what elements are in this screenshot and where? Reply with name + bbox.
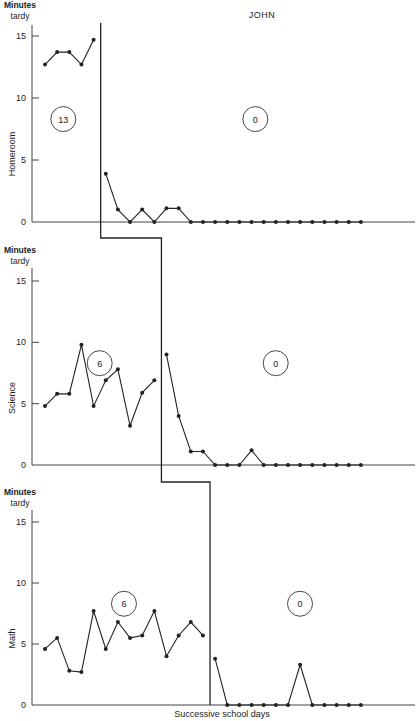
data-point [322,220,326,224]
data-point [225,463,229,467]
data-point [335,220,339,224]
data-point [310,463,314,467]
data-point [116,208,120,212]
phase-change-line [101,23,210,705]
data-point [79,63,83,67]
data-point [43,63,47,67]
panel-homeroom: Minutestardy051015Homeroom130 [4,0,415,227]
multiple-baseline-chart: JOHNMinutestardy051015Homeroom130Minutes… [0,0,420,721]
treatment-series [167,355,361,465]
data-point [128,636,132,640]
data-point [274,463,278,467]
y-tick-label: 5 [21,155,26,165]
data-point [286,703,290,707]
treatment-mean-circle-label: 0 [273,359,278,369]
data-point [92,404,96,408]
data-point [201,450,205,454]
data-point [335,703,339,707]
panel-label: Science [7,382,17,414]
y-tick-label: 0 [21,217,26,227]
baseline-series [45,611,203,672]
data-point [201,220,205,224]
y-tick-label: 15 [16,276,26,286]
data-point [79,670,83,674]
data-point [116,367,120,371]
y-unit-label: Minutes [4,245,36,255]
y-tick-label: 15 [16,31,26,41]
y-tick-label: 0 [21,460,26,470]
data-point [359,463,363,467]
y-unit-label: tardy [11,498,31,508]
data-point [116,620,120,624]
data-point [250,703,254,707]
data-point [128,220,132,224]
data-point [165,206,169,210]
data-point [189,620,193,624]
y-unit-label: tardy [11,11,31,21]
data-point [310,703,314,707]
y-tick-label: 10 [16,337,26,347]
data-point [310,220,314,224]
data-point [213,463,217,467]
y-unit-label: tardy [11,256,31,266]
baseline-mean-circle-label: 13 [58,115,68,125]
data-point [67,392,71,396]
data-point [201,633,205,637]
data-point [347,463,351,467]
data-point [359,220,363,224]
x-axis-title: Successive school days [174,709,270,719]
data-point [104,647,108,651]
data-point [104,172,108,176]
data-point [92,38,96,42]
baseline-mean-circle-label: 6 [97,359,102,369]
data-point [250,220,254,224]
treatment-mean-circle-label: 0 [253,115,258,125]
data-point [322,463,326,467]
data-point [189,450,193,454]
data-point [237,220,241,224]
data-point [298,220,302,224]
data-point [55,392,59,396]
baseline-mean-circle-label: 6 [121,599,126,609]
y-tick-label: 5 [21,639,26,649]
data-point [237,463,241,467]
y-tick-label: 10 [16,93,26,103]
data-point [213,220,217,224]
data-point [152,378,156,382]
treatment-series [106,174,361,222]
panel-label: Math [7,628,17,648]
data-point [347,220,351,224]
data-point [165,353,169,357]
data-point [237,703,241,707]
data-point [177,206,181,210]
data-point [262,703,266,707]
data-point [67,50,71,54]
data-point [225,220,229,224]
y-unit-label: Minutes [4,0,36,10]
data-point [286,463,290,467]
data-point [67,669,71,673]
data-point [347,703,351,707]
data-point [140,391,144,395]
data-point [177,633,181,637]
data-point [104,378,108,382]
data-point [225,703,229,707]
data-point [152,609,156,613]
baseline-series [45,345,154,426]
data-point [79,343,83,347]
data-point [298,463,302,467]
data-point [262,220,266,224]
treatment-series [215,659,361,705]
data-point [298,663,302,667]
data-point [165,654,169,658]
data-point [92,609,96,613]
data-point [177,414,181,418]
data-point [140,633,144,637]
data-point [189,220,193,224]
treatment-mean-circle-label: 0 [298,599,303,609]
panel-science: Minutestardy051015Science60 [4,245,415,470]
data-point [335,463,339,467]
data-point [322,703,326,707]
data-point [128,424,132,428]
y-tick-label: 0 [21,700,26,710]
